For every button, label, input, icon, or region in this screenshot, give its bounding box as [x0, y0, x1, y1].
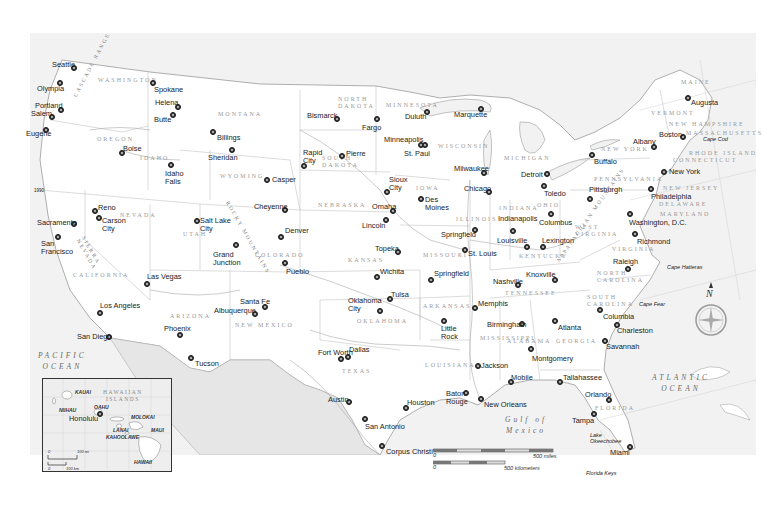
city-marker-pittsburgh[interactable] — [587, 196, 593, 202]
state-label-montana: MONTANA — [218, 111, 262, 118]
hawaii-inset: HAWAIIAN ISLANDS KAUAINIIHAUOAHUMOLOKAIL… — [42, 378, 172, 472]
city-label-sheridan: Sheridan — [208, 154, 238, 162]
state-label-alabama: ALABAMA — [507, 338, 551, 345]
city-label-lincoln: Lincoln — [362, 222, 385, 230]
state-label-arkansas: ARKANSAS — [423, 303, 471, 310]
city-label-toledo: Toledo — [544, 190, 566, 198]
state-label-wisconsin: WISCONSIN — [438, 143, 489, 150]
city-marker-indianapolis[interactable] — [510, 228, 516, 234]
city-marker-montgomery[interactable] — [528, 346, 534, 352]
city-marker-new-york[interactable] — [661, 169, 667, 175]
city-label-las-vegas: Las Vegas — [147, 273, 182, 281]
city-label-eugene: Eugene — [26, 130, 51, 138]
city-marker-raleigh[interactable] — [625, 266, 631, 272]
city-marker-las-vegas[interactable] — [144, 281, 150, 287]
city-label-knoxville: Knoxville — [526, 271, 556, 279]
city-marker-fargo[interactable] — [374, 116, 380, 122]
city-marker-st-paul[interactable] — [422, 142, 428, 148]
city-label-santa-fe: Santa Fe — [240, 298, 270, 306]
city-marker-des-moines[interactable] — [418, 196, 424, 202]
state-label-connecticut: CONNECTICUT — [673, 157, 737, 164]
city-marker-casper[interactable] — [264, 177, 270, 183]
state-label-rhode-island: RHODE ISLAND — [689, 150, 757, 157]
city-label-wichita: Wichita — [380, 268, 404, 276]
city-marker-washington-d-c[interactable] — [627, 211, 633, 217]
city-label-atlanta: Atlanta — [558, 324, 581, 332]
state-label-ohio: OHIO — [537, 202, 560, 209]
city-marker-idaho-falls[interactable] — [168, 162, 174, 168]
state-label-oklahoma: OKLAHOMA — [357, 318, 408, 325]
state-label-missouri: MISSOURI — [423, 252, 468, 259]
city-label-mobile: Mobile — [511, 374, 533, 382]
city-label-butte: Butte — [154, 116, 171, 124]
compass-rose: N — [693, 280, 733, 344]
island-label-molokai: MOLOKAI — [131, 414, 155, 420]
city-label-corpus-christi: Corpus Christi — [386, 448, 433, 456]
state-label-louisiana: LOUISIANA — [425, 362, 476, 369]
city-label-tallahassee: Tallahassee — [563, 374, 602, 382]
city-label-duluth: Duluth — [405, 113, 426, 121]
feature-label-lake-okeechobee: Lake Okeechobee — [590, 432, 621, 444]
city-marker-corpus-christi[interactable] — [379, 443, 385, 449]
state-label-maine: MAINE — [681, 79, 711, 86]
city-label-cheyenne: Cheyenne — [254, 203, 288, 211]
city-marker-tucson[interactable] — [188, 355, 194, 361]
ocean-label-pacific: PACIFIC OCEAN — [38, 350, 87, 372]
city-label-milwaukee: Milwaukee — [454, 165, 489, 173]
city-label-spokane: Spokane — [154, 86, 183, 94]
ocean-label-gulf: Gulf of Mexico — [505, 414, 547, 436]
city-label-los-angeles: Los Angeles — [100, 302, 140, 310]
city-marker-dallas[interactable] — [345, 354, 351, 360]
city-marker-pierre[interactable] — [339, 153, 345, 159]
hawaii-scale-zero-mi: 0 — [48, 449, 50, 454]
state-label-maryland: MARYLAND — [660, 211, 710, 218]
state-label-virginia: VIRGINIA — [612, 246, 655, 253]
city-marker-detroit[interactable] — [544, 171, 550, 177]
city-marker-pueblo[interactable] — [282, 260, 288, 266]
city-label-columbus: Columbus — [539, 219, 572, 227]
city-label-bismarck: Bismarck — [307, 112, 337, 120]
city-marker-denver[interactable] — [278, 234, 284, 240]
city-marker-billings[interactable] — [210, 129, 216, 135]
city-label-st-paul: St. Paul — [404, 150, 430, 158]
state-label-idaho: IDAHO — [140, 155, 169, 162]
city-marker-grand-junction[interactable] — [233, 242, 239, 248]
hawaii-scale-km: 100 km — [66, 466, 79, 471]
island-label-kauai: KAUAI — [75, 389, 91, 395]
city-label-honolulu: Honolulu — [69, 415, 98, 423]
state-label-michigan: MICHIGAN — [504, 155, 551, 162]
city-label-st-louis: St. Louis — [468, 250, 497, 258]
state-label-wyoming: WYOMING — [220, 173, 264, 180]
compass-icon — [693, 280, 733, 340]
city-label-orlando: Orlando — [585, 391, 611, 399]
state-label-delaware: DELAWARE — [659, 201, 708, 208]
city-marker-columbus[interactable] — [548, 211, 554, 217]
state-label-new-mexico: NEW MEXICO — [235, 322, 294, 329]
island-label-kahoolawe: KAHOOLAWE — [106, 434, 139, 440]
island-label-niihau: NIIHAU — [59, 407, 76, 413]
city-label-louisville: Louisville — [497, 237, 527, 245]
city-label-detroit: Detroit — [521, 171, 543, 179]
island-label-oahu: OAHU — [94, 404, 109, 410]
city-label-san-diego: San Diego — [77, 333, 112, 341]
hawaii-title: HAWAIIAN ISLANDS — [103, 389, 143, 403]
state-label-pennsylvania: PENNSYLVANIA — [594, 176, 663, 183]
state-label-new-hampshire: NEW HAMPSHIRE — [669, 121, 745, 128]
city-marker-los-angeles[interactable] — [97, 310, 103, 316]
state-label-vermont: VERMONT — [651, 110, 695, 117]
city-label-des-moines: Des Moines — [425, 196, 449, 212]
scale-zero-km: 0 — [433, 464, 436, 470]
city-label-jackson: Jackson — [481, 362, 508, 370]
city-label-pittsburgh: Pittsburgh — [589, 186, 622, 194]
city-label-dallas: Dallas — [349, 346, 370, 354]
state-label-nebraska: NEBRASKA — [318, 202, 366, 209]
scale-miles-label: 500 miles — [533, 453, 557, 459]
city-label-austin: Austin — [328, 396, 349, 404]
city-label-springfield: Springfield — [441, 231, 476, 239]
compass-north-label: N — [706, 288, 713, 299]
city-label-memphis: Memphis — [478, 300, 508, 308]
city-label-new-york: New York — [669, 168, 700, 176]
state-label-kansas: KANSAS — [348, 257, 384, 264]
city-label-topeka: Topeka — [375, 245, 399, 253]
state-label-new-york: NEW YORK — [601, 146, 649, 153]
